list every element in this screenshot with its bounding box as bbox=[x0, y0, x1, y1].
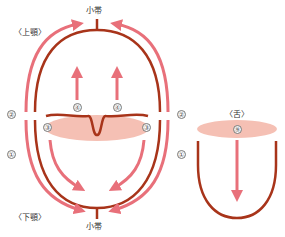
upper-outer-arrows bbox=[26, 24, 168, 112]
marker-3-right: ③ bbox=[142, 123, 151, 132]
label-frenulum-bottom: 小帯 bbox=[86, 222, 102, 232]
marker-9: ⑨ bbox=[233, 125, 242, 134]
oral-massage-diagram: 小帯 小帯 〈上顎〉 〈下顎〉 〈舌〉 ② ② ① ① ③ ③ ④ ④ ⑨ bbox=[0, 0, 285, 237]
label-upper-jaw: 〈上顎〉 bbox=[14, 28, 46, 38]
label-lower-jaw: 〈下顎〉 bbox=[14, 213, 46, 223]
marker-2-right: ② bbox=[177, 110, 186, 119]
marker-1-left: ① bbox=[7, 150, 16, 159]
label-frenulum-top: 小帯 bbox=[86, 6, 102, 16]
lip bbox=[45, 115, 149, 141]
marker-1-right: ① bbox=[177, 150, 186, 159]
marker-2-left: ② bbox=[7, 110, 16, 119]
marker-4-right: ④ bbox=[113, 103, 122, 112]
upward-arrows bbox=[77, 72, 117, 100]
label-tongue: 〈舌〉 bbox=[225, 110, 249, 120]
inner-cheek-arrows bbox=[50, 140, 144, 188]
marker-3-left: ③ bbox=[43, 123, 52, 132]
marker-4-left: ④ bbox=[73, 103, 82, 112]
